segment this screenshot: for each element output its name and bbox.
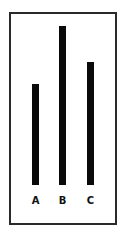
- bar-c: [87, 62, 94, 185]
- category-label-c: C: [81, 196, 101, 206]
- bar-a: [32, 84, 39, 185]
- bar-b: [59, 26, 66, 185]
- category-label-b: B: [53, 196, 73, 206]
- category-label-a: A: [26, 196, 46, 206]
